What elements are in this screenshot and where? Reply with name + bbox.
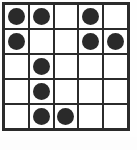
- grid-cell-r4-c3[interactable]: [55, 80, 78, 103]
- bottom-margin: [0, 137, 137, 150]
- grid-cell-r5-c3[interactable]: [55, 105, 78, 128]
- dot-icon: [33, 83, 50, 100]
- grid-cell-r1-c3[interactable]: [55, 5, 78, 28]
- dot-grid: [2, 2, 130, 131]
- grid-cell-r1-c2[interactable]: [30, 5, 53, 28]
- grid-cell-r2-c5[interactable]: [104, 30, 127, 53]
- grid-cell-r2-c4[interactable]: [79, 30, 102, 53]
- dot-icon: [8, 8, 25, 25]
- grid-cell-r3-c1[interactable]: [5, 55, 28, 78]
- dot-icon: [33, 108, 50, 125]
- dot-icon: [57, 108, 74, 125]
- dot-icon: [33, 8, 50, 25]
- grid-cell-r4-c5[interactable]: [104, 80, 127, 103]
- grid-cell-r5-c1[interactable]: [5, 105, 28, 128]
- grid-cell-r2-c1[interactable]: [5, 30, 28, 53]
- dot-icon: [8, 33, 25, 50]
- grid-cell-r2-c3[interactable]: [55, 30, 78, 53]
- grid-cell-r4-c4[interactable]: [79, 80, 102, 103]
- grid-cell-r5-c2[interactable]: [30, 105, 53, 128]
- grid-cell-r3-c3[interactable]: [55, 55, 78, 78]
- grid-cell-r5-c4[interactable]: [79, 105, 102, 128]
- grid-cell-r3-c2[interactable]: [30, 55, 53, 78]
- grid-cell-r4-c1[interactable]: [5, 80, 28, 103]
- grid-cell-r2-c2[interactable]: [30, 30, 53, 53]
- grid-cell-r1-c4[interactable]: [79, 5, 102, 28]
- grid-cell-r3-c4[interactable]: [79, 55, 102, 78]
- grid-cell-r5-c5[interactable]: [104, 105, 127, 128]
- dot-icon: [82, 33, 99, 50]
- grid-cell-r3-c5[interactable]: [104, 55, 127, 78]
- dot-icon: [82, 8, 99, 25]
- grid-cell-r4-c2[interactable]: [30, 80, 53, 103]
- grid-cell-r1-c5[interactable]: [104, 5, 127, 28]
- grid-cell-r1-c1[interactable]: [5, 5, 28, 28]
- puzzle-board: [0, 0, 137, 150]
- dot-icon: [33, 58, 50, 75]
- dot-icon: [107, 33, 124, 50]
